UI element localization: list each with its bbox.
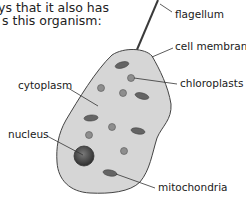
label-cell-membrane: cell membrane [175,40,246,52]
label-cytoplasm: cytoplasm [18,79,72,91]
label-mitochondria: mitochondria [158,181,228,193]
nucleus-icon [74,146,94,166]
label-flagellum: flagellum [175,8,224,20]
cell-diagram [0,0,246,202]
flagellum-icon [136,0,158,52]
label-chloroplasts: chloroplasts [180,77,243,89]
label-nucleus: nucleus [8,128,49,140]
